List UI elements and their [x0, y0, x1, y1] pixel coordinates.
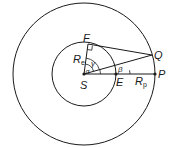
label-S: S: [80, 79, 88, 91]
line-FQ: [88, 44, 152, 55]
label-E: E: [116, 76, 124, 88]
label-Rp: Rp: [135, 75, 147, 89]
label-gamma: γ: [91, 59, 96, 68]
label-P: P: [158, 68, 166, 80]
label-Q: Q: [154, 49, 163, 61]
geometry-diagram: F Q P S E Re Rp α γ β: [0, 0, 175, 147]
label-Re: Re: [73, 53, 85, 66]
point-P: [153, 72, 156, 75]
angle-beta-arc: [130, 70, 131, 74]
angle-gamma-arc2: [100, 70, 101, 74]
label-beta: β: [117, 65, 123, 74]
